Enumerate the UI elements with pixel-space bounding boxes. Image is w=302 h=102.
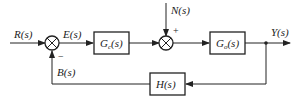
error-label: E(s) xyxy=(62,28,82,41)
summing-junction-2 xyxy=(159,36,173,50)
block-diagram: R(s) − E(s) Gc(s) N(s) + Go(s) Y(s) H(s)… xyxy=(0,0,302,102)
summing-junction-1 xyxy=(45,36,59,50)
feedback-signal-label: B(s) xyxy=(57,66,76,79)
feedback-block-label: H(s) xyxy=(155,78,176,91)
output-label: Y(s) xyxy=(271,26,289,39)
input-label: R(s) xyxy=(13,28,33,41)
plant-label: Go(s) xyxy=(216,37,239,51)
disturbance-label: N(s) xyxy=(170,4,190,17)
controller-label: Gc(s) xyxy=(100,37,123,51)
disturbance-plus-sign: + xyxy=(173,25,179,36)
feedback-minus-sign: − xyxy=(58,51,64,62)
